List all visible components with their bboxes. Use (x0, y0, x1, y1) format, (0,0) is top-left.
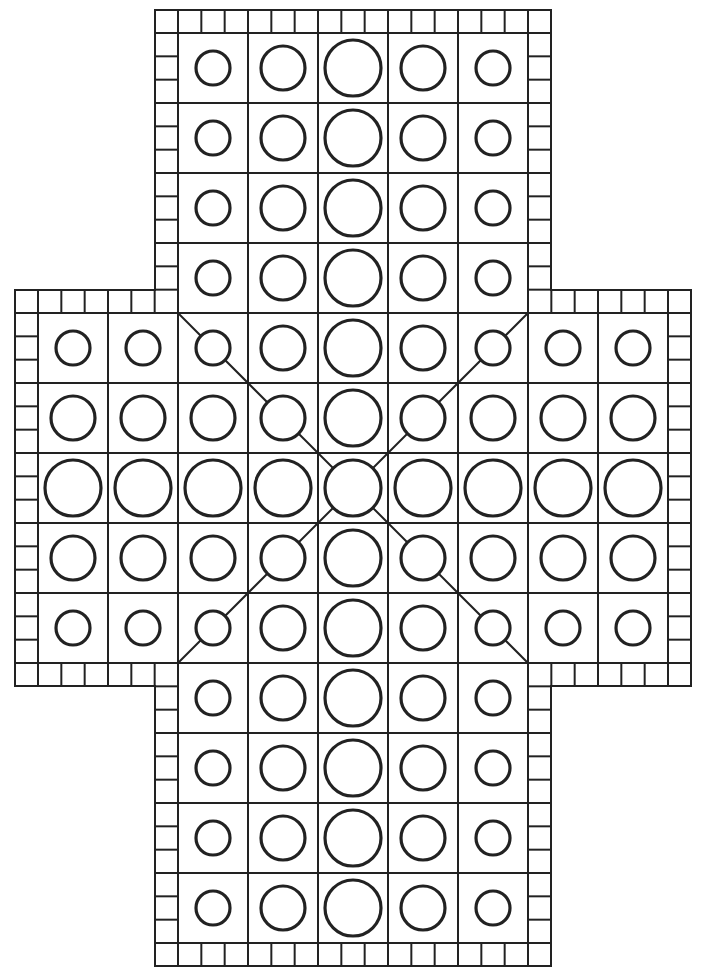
board-space-medium[interactable] (51, 396, 95, 440)
board-space-medium[interactable] (261, 116, 305, 160)
board-space-large[interactable] (325, 810, 381, 866)
board-space-small[interactable] (476, 51, 510, 85)
board-space-medium[interactable] (261, 326, 305, 370)
board-space-medium[interactable] (261, 816, 305, 860)
board-space-medium[interactable] (401, 746, 445, 790)
board-space-medium[interactable] (261, 606, 305, 650)
board-spaces[interactable] (45, 40, 661, 936)
board-space-medium[interactable] (121, 396, 165, 440)
board-space-large[interactable] (325, 320, 381, 376)
board-space-medium[interactable] (261, 676, 305, 720)
board-space-small[interactable] (196, 821, 230, 855)
board-space-small[interactable] (476, 751, 510, 785)
board-space-medium[interactable] (261, 886, 305, 930)
board-space-small[interactable] (476, 891, 510, 925)
board-space-small[interactable] (546, 331, 580, 365)
board-space-medium[interactable] (401, 606, 445, 650)
board-space-small[interactable] (196, 611, 230, 645)
board-space-medium[interactable] (401, 116, 445, 160)
board-space-small[interactable] (126, 611, 160, 645)
board-space-small[interactable] (196, 191, 230, 225)
board-space-small[interactable] (476, 191, 510, 225)
board-space-small[interactable] (196, 331, 230, 365)
board-space-medium[interactable] (191, 536, 235, 580)
board-space-large[interactable] (255, 460, 311, 516)
board-space-small[interactable] (616, 331, 650, 365)
board-space-medium[interactable] (261, 46, 305, 90)
board-space-medium[interactable] (401, 676, 445, 720)
board-space-small[interactable] (476, 331, 510, 365)
board-space-medium[interactable] (261, 536, 305, 580)
board-space-large[interactable] (185, 460, 241, 516)
board-space-small[interactable] (546, 611, 580, 645)
board-space-small[interactable] (476, 121, 510, 155)
board-space-medium[interactable] (401, 326, 445, 370)
board-space-small[interactable] (476, 261, 510, 295)
board-space-small[interactable] (476, 611, 510, 645)
board-space-large[interactable] (535, 460, 591, 516)
board-space-medium[interactable] (261, 396, 305, 440)
board-space-large[interactable] (45, 460, 101, 516)
board-space-large[interactable] (325, 740, 381, 796)
board-space-medium[interactable] (541, 536, 585, 580)
board-space-small[interactable] (196, 261, 230, 295)
board-space-medium[interactable] (261, 746, 305, 790)
board-space-medium[interactable] (611, 396, 655, 440)
board-space-large[interactable] (325, 880, 381, 936)
board-space-small[interactable] (126, 331, 160, 365)
board-space-small[interactable] (196, 751, 230, 785)
board-space-medium[interactable] (611, 536, 655, 580)
board-space-large[interactable] (115, 460, 171, 516)
board-space-large[interactable] (325, 600, 381, 656)
board-space-small[interactable] (196, 681, 230, 715)
board-space-small[interactable] (476, 821, 510, 855)
board-space-small[interactable] (196, 891, 230, 925)
board-space-large[interactable] (465, 460, 521, 516)
board-space-medium[interactable] (401, 46, 445, 90)
board-space-medium[interactable] (401, 816, 445, 860)
board-space-small[interactable] (56, 611, 90, 645)
board-space-small[interactable] (196, 51, 230, 85)
board-space-medium[interactable] (401, 186, 445, 230)
board-space-medium[interactable] (261, 186, 305, 230)
board-space-medium[interactable] (121, 536, 165, 580)
board-space-small[interactable] (476, 681, 510, 715)
board-space-large[interactable] (325, 180, 381, 236)
game-board (0, 0, 707, 979)
board-space-small[interactable] (196, 121, 230, 155)
board-space-medium[interactable] (191, 396, 235, 440)
board-space-large[interactable] (325, 110, 381, 166)
board-space-medium[interactable] (471, 396, 515, 440)
board-space-large[interactable] (325, 250, 381, 306)
board-space-medium[interactable] (541, 396, 585, 440)
board-space-medium[interactable] (401, 256, 445, 300)
board-space-small[interactable] (56, 331, 90, 365)
board-space-large[interactable] (325, 670, 381, 726)
board-space-medium[interactable] (471, 536, 515, 580)
board-space-medium[interactable] (51, 536, 95, 580)
board-space-small[interactable] (616, 611, 650, 645)
board-space-medium[interactable] (401, 536, 445, 580)
board-space-large[interactable] (325, 460, 381, 516)
board-space-large[interactable] (325, 40, 381, 96)
board-space-large[interactable] (325, 390, 381, 446)
board-space-medium[interactable] (401, 396, 445, 440)
board-space-medium[interactable] (401, 886, 445, 930)
board-space-medium[interactable] (261, 256, 305, 300)
board-space-large[interactable] (605, 460, 661, 516)
board-space-large[interactable] (395, 460, 451, 516)
board-space-large[interactable] (325, 530, 381, 586)
